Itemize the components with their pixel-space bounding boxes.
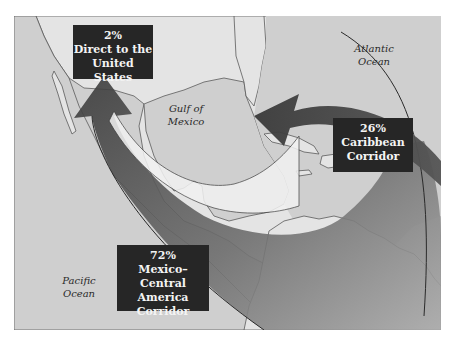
label-caribbean-percent: 26% bbox=[333, 122, 413, 136]
label-direct-line1: Direct to the bbox=[73, 43, 153, 57]
ocean-label-pacific: Pacific Ocean bbox=[54, 274, 104, 300]
label-mexico-line2: Central America bbox=[117, 277, 209, 305]
label-mexico-line3: Corridor bbox=[117, 305, 209, 319]
label-direct-line2: United States bbox=[73, 57, 153, 85]
label-mexico-central-america-corridor: 72% Mexico– Central America Corridor bbox=[117, 245, 209, 311]
label-caribbean-corridor: 26% Caribbean Corridor bbox=[333, 118, 413, 172]
ocean-label-gulf-of-mexico: Gulf of Mexico bbox=[156, 102, 216, 128]
label-mexico-percent: 72% bbox=[117, 249, 209, 263]
ocean-label-pacific-line1: Pacific bbox=[54, 274, 104, 287]
label-caribbean-line2: Corridor bbox=[333, 150, 413, 164]
ocean-label-gulf-line2: Mexico bbox=[156, 115, 216, 128]
ocean-label-pacific-line2: Ocean bbox=[54, 287, 104, 300]
ocean-label-atlantic-line2: Ocean bbox=[344, 55, 404, 68]
ocean-label-gulf-line1: Gulf of bbox=[156, 102, 216, 115]
map-frame: Atlantic Ocean Gulf of Mexico Pacific Oc… bbox=[14, 16, 441, 330]
label-direct-to-us: 2% Direct to the United States bbox=[73, 25, 153, 79]
ocean-label-atlantic: Atlantic Ocean bbox=[344, 42, 404, 68]
label-caribbean-line1: Caribbean bbox=[333, 136, 413, 150]
label-direct-percent: 2% bbox=[73, 29, 153, 43]
label-mexico-line1: Mexico– bbox=[117, 263, 209, 277]
ocean-label-atlantic-line1: Atlantic bbox=[344, 42, 404, 55]
